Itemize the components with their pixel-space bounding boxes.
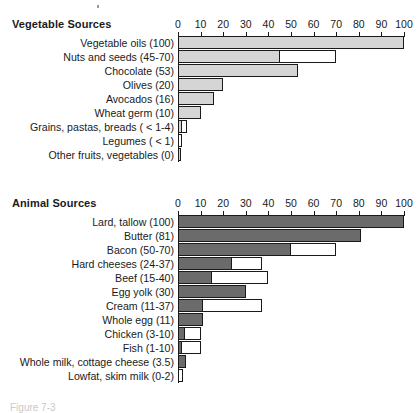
bar-row: Fish (1-10) (0, 341, 419, 355)
bar-value (178, 313, 203, 326)
animal-tick-label-30: 30 (240, 197, 252, 209)
bar-value (178, 148, 181, 161)
bar-row-label: Avocados (16) (106, 92, 174, 106)
bar-row: Avocados (16) (0, 92, 419, 106)
bar-track (178, 229, 405, 243)
bar-value (178, 285, 246, 298)
vegetable-x-axis: 0102030405060708090100 (178, 18, 404, 36)
bar-value (178, 78, 223, 91)
vegetable-tick-label-70: 70 (330, 18, 342, 30)
bar-row: Whole milk, cottage cheese (3.5) (0, 355, 419, 369)
animal-tick-label-80: 80 (353, 197, 365, 209)
bar-track (178, 92, 405, 106)
vegetable-tick-label-90: 90 (376, 18, 388, 30)
bar-track (178, 369, 405, 383)
bar-value (178, 120, 182, 133)
vegetable-tick-label-80: 80 (353, 18, 365, 30)
bar-row-label: Legumes ( < 1) (102, 134, 174, 148)
bar-row: Cream (11-37) (0, 299, 419, 313)
bar-track (178, 341, 405, 355)
bar-row: Lowfat, skim milk (0-2) (0, 369, 419, 383)
bar-row-label: Bacon (50-70) (107, 243, 174, 257)
bar-row-label: Lowfat, skim milk (0-2) (68, 369, 174, 383)
vegetable-tick-label-0: 0 (175, 18, 181, 30)
bar-row-label: Vegetable oils (100) (80, 36, 174, 50)
bar-track (178, 134, 405, 148)
vegetable-chart-title: Vegetable Sources (12, 18, 112, 30)
bar-value (178, 341, 182, 354)
bar-track (178, 327, 405, 341)
animal-tick-label-60: 60 (308, 197, 320, 209)
bar-row: Other fruits, vegetables (0) (0, 148, 419, 162)
bar-row: Vegetable oils (100) (0, 36, 419, 50)
bar-row-label: Whole milk, cottage cheese (3.5) (20, 355, 174, 369)
bar-row: Lard, tallow (100) (0, 215, 419, 229)
bar-value (178, 106, 201, 119)
bar-range-max (178, 134, 182, 147)
vegetable-tick-label-50: 50 (285, 18, 297, 30)
bar-row-label: Hard cheeses (24-37) (72, 257, 174, 271)
bar-row: Olives (20) (0, 78, 419, 92)
bar-row-label: Beef (15-40) (115, 271, 174, 285)
bar-range-max (178, 369, 183, 382)
bar-value (178, 299, 203, 312)
bar-row: Chocolate (53) (0, 64, 419, 78)
bar-row: Grains, pastas, breads ( < 1-4) (0, 120, 419, 134)
bar-value (178, 229, 361, 242)
animal-tick-label-10: 10 (195, 197, 207, 209)
bar-track (178, 299, 405, 313)
bar-track (178, 313, 405, 327)
bar-track (178, 243, 405, 257)
vegetable-sources-chart: Vegetable Sources 0102030405060708090100… (0, 18, 419, 36)
bar-row: Egg yolk (30) (0, 285, 419, 299)
bar-row-label: Chicken (3-10) (105, 327, 174, 341)
animal-tick-label-0: 0 (175, 197, 181, 209)
vegetable-tick-label-30: 30 (240, 18, 252, 30)
bar-track (178, 106, 405, 120)
bar-track (178, 36, 405, 50)
bar-row-label: Fish (1-10) (123, 341, 174, 355)
bar-value (178, 215, 404, 228)
animal-tick-label-90: 90 (376, 197, 388, 209)
bar-row: Whole egg (11) (0, 313, 419, 327)
bar-row: Legumes ( < 1) (0, 134, 419, 148)
bar-value (178, 64, 298, 77)
animal-tick-label-50: 50 (285, 197, 297, 209)
bar-value (178, 243, 291, 256)
bar-row-label: Other fruits, vegetables (0) (49, 148, 174, 162)
bar-track (178, 257, 405, 271)
animal-tick-label-20: 20 (217, 197, 229, 209)
bar-value (178, 327, 185, 340)
vegetable-chart-header: Vegetable Sources 0102030405060708090100 (0, 18, 419, 36)
vegetable-plot-area: Vegetable oils (100)Nuts and seeds (45-7… (0, 36, 419, 162)
vegetable-tick-label-40: 40 (263, 18, 275, 30)
page-speck (97, 5, 99, 8)
bar-track (178, 148, 405, 162)
bar-row: Nuts and seeds (45-70) (0, 50, 419, 64)
bar-track (178, 285, 405, 299)
bar-track (178, 120, 405, 134)
bar-value (178, 355, 186, 368)
animal-chart-title: Animal Sources (12, 197, 97, 209)
bar-row-label: Lard, tallow (100) (92, 215, 174, 229)
bar-row: Butter (81) (0, 229, 419, 243)
vegetable-tick-label-100: 100 (395, 18, 413, 30)
bar-row-label: Nuts and seeds (45-70) (63, 50, 174, 64)
bar-row-label: Wheat germ (10) (95, 106, 174, 120)
bar-track (178, 215, 405, 229)
bar-track (178, 78, 405, 92)
bar-row: Chicken (3-10) (0, 327, 419, 341)
bar-row: Bacon (50-70) (0, 243, 419, 257)
bar-row-label: Cream (11-37) (106, 299, 174, 313)
bar-value (178, 36, 404, 49)
animal-chart-header: Animal Sources 0102030405060708090100 (0, 197, 419, 215)
bar-row-label: Grains, pastas, breads ( < 1-4) (30, 120, 174, 134)
animal-tick-label-70: 70 (330, 197, 342, 209)
animal-x-axis: 0102030405060708090100 (178, 197, 404, 215)
bar-value (178, 50, 280, 63)
bar-track (178, 50, 405, 64)
bar-row-label: Whole egg (11) (102, 313, 174, 327)
bar-row-label: Egg yolk (30) (112, 285, 174, 299)
bar-track (178, 271, 405, 285)
bar-value (178, 271, 212, 284)
